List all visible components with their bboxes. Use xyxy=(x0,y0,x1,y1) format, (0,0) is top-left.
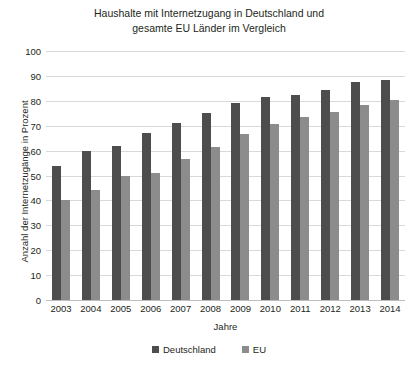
x-axis-tick-label: 2007 xyxy=(170,303,191,314)
chart-legend: DeutschlandEU xyxy=(0,344,418,355)
bar-group xyxy=(172,51,190,300)
bar-group xyxy=(351,51,369,300)
x-axis-tick-label: 2013 xyxy=(350,303,371,314)
bar-deutschland-2004 xyxy=(82,151,91,300)
gridline: 0 xyxy=(46,300,405,301)
bar-deutschland-2014 xyxy=(381,80,390,300)
bar-group xyxy=(52,51,70,300)
legend-label: EU xyxy=(253,344,266,355)
legend-label: Deutschland xyxy=(163,344,216,355)
bar-eu-2013 xyxy=(360,105,369,300)
chart-title-line-2: gesamte EU Länder im Vergleich xyxy=(0,21,418,36)
x-axis-tick-label: 2008 xyxy=(200,303,221,314)
y-axis-tick-label: 10 xyxy=(30,270,41,281)
bar-deutschland-2009 xyxy=(231,103,240,300)
bar-eu-2014 xyxy=(390,100,399,300)
x-axis-tick-label: 2011 xyxy=(290,303,310,314)
y-axis-tick-label: 80 xyxy=(30,95,41,106)
y-axis-tick-label: 20 xyxy=(30,245,41,256)
bar-eu-2004 xyxy=(91,190,100,300)
x-axis-title: Jahre xyxy=(46,321,405,332)
bar-group xyxy=(82,51,100,300)
plot-area: 0102030405060708090100 xyxy=(46,51,405,300)
y-axis-tick-label: 100 xyxy=(25,46,41,57)
y-axis-tick-label: 60 xyxy=(30,145,41,156)
y-axis-tick-label: 70 xyxy=(30,120,41,131)
bar-deutschland-2012 xyxy=(321,90,330,300)
y-axis-tick-label: 40 xyxy=(30,195,41,206)
x-axis-tick-labels: 2003200420052006200720082009201020112012… xyxy=(46,303,405,317)
x-axis-tick-label: 2010 xyxy=(260,303,281,314)
x-axis-tick-label: 2003 xyxy=(50,303,71,314)
x-axis-tick-label: 2012 xyxy=(320,303,341,314)
bar-chart: Haushalte mit Internetzugang in Deutschl… xyxy=(0,0,418,372)
y-axis-tick-label: 0 xyxy=(36,295,41,306)
x-axis-tick-label: 2014 xyxy=(379,303,400,314)
bar-eu-2009 xyxy=(240,134,249,300)
bar-deutschland-2006 xyxy=(142,133,151,300)
bar-eu-2012 xyxy=(330,112,339,300)
bar-eu-2010 xyxy=(270,124,279,300)
bar-group xyxy=(142,51,160,300)
y-axis-tick-label: 90 xyxy=(30,70,41,81)
bar-eu-2011 xyxy=(300,117,309,300)
bar-group xyxy=(321,51,339,300)
bar-eu-2005 xyxy=(121,176,130,301)
legend-item-deutschland[interactable]: Deutschland xyxy=(152,344,216,355)
x-axis-tick-label: 2004 xyxy=(80,303,101,314)
bar-deutschland-2013 xyxy=(351,82,360,300)
bar-deutschland-2008 xyxy=(202,113,211,300)
y-axis-title: Anzahl der Internetzugänge in Prozent xyxy=(19,77,30,287)
chart-title: Haushalte mit Internetzugang in Deutschl… xyxy=(0,6,418,36)
bar-group xyxy=(202,51,220,300)
bar-deutschland-2010 xyxy=(261,97,270,300)
chart-title-line-1: Haushalte mit Internetzugang in Deutschl… xyxy=(94,7,324,19)
bar-group xyxy=(112,51,130,300)
y-axis-tick-label: 30 xyxy=(30,220,41,231)
bar-deutschland-2005 xyxy=(112,146,121,300)
bar-eu-2008 xyxy=(211,147,220,300)
legend-item-eu[interactable]: EU xyxy=(242,344,266,355)
x-axis-tick-label: 2005 xyxy=(110,303,131,314)
bar-group xyxy=(381,51,399,300)
legend-swatch-icon xyxy=(242,346,249,353)
bar-eu-2006 xyxy=(151,173,160,300)
x-axis-tick-label: 2009 xyxy=(230,303,251,314)
bar-group xyxy=(261,51,279,300)
legend-swatch-icon xyxy=(152,346,159,353)
bar-deutschland-2003 xyxy=(52,166,61,300)
bar-eu-2003 xyxy=(61,200,70,300)
bar-group xyxy=(231,51,249,300)
bar-groups xyxy=(46,51,405,300)
bar-eu-2007 xyxy=(181,159,190,300)
x-axis-tick-label: 2006 xyxy=(140,303,161,314)
bar-deutschland-2007 xyxy=(172,123,181,300)
y-axis-tick-label: 50 xyxy=(30,170,41,181)
bar-deutschland-2011 xyxy=(291,95,300,300)
bar-group xyxy=(291,51,309,300)
